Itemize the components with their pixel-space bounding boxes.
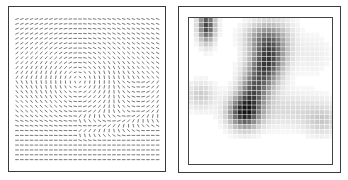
field-segment [123,66,125,69]
field-segment [21,61,23,64]
vector-field-plot [9,7,167,173]
heat-cell [267,105,271,109]
heat-cell [301,125,305,129]
heat-cell [315,42,319,46]
heat-cell [291,18,295,22]
field-segment [132,91,135,92]
field-segment [152,105,155,108]
heat-cell [267,81,271,85]
field-segment [99,75,100,79]
heat-cell [252,33,256,37]
heat-cell [189,96,193,100]
heat-cell [247,52,251,56]
heat-cell [252,18,256,22]
heat-cell [194,110,198,114]
heat-cell [325,47,329,51]
heat-cell [262,105,266,109]
heat-cell [320,115,324,119]
field-segment [59,120,62,121]
heat-cell [315,57,319,61]
field-segment [98,33,101,34]
field-segment [132,52,135,54]
heat-cell [330,96,333,100]
field-segment [99,85,100,88]
field-segment [40,56,42,59]
field-segment [146,101,149,103]
field-segment [41,85,42,88]
field-segment [16,95,18,98]
field-segment [15,18,18,19]
field-segment [20,18,23,19]
field-segment [54,23,58,24]
heat-cell [286,37,290,41]
heat-cell [247,67,251,71]
field-segment [16,66,18,69]
field-segment [54,57,57,59]
heat-cell [325,96,329,100]
heat-cell [286,28,290,32]
field-segment [55,71,56,74]
heat-cell [271,120,275,124]
field-segment [79,86,82,87]
field-segment [40,115,43,117]
heat-cell [238,52,242,56]
field-segment [15,38,18,40]
field-segment [108,47,111,49]
heat-cell [262,86,266,90]
field-segment [40,42,43,44]
field-segment [117,18,120,19]
field-segment [30,125,33,126]
field-segment [16,52,19,54]
field-segment [137,115,140,117]
field-segment [93,43,96,44]
field-segment [69,71,71,73]
field-segment [108,33,111,34]
field-segment [98,105,100,108]
field-segment [93,95,95,98]
field-segment [88,66,91,68]
field-segment [98,95,100,98]
heat-cell [262,110,266,114]
heat-cell [330,130,333,134]
heat-cell [238,96,242,100]
field-segment [122,18,125,19]
heat-cell [320,67,324,71]
field-segment [89,76,90,79]
heat-cell [233,125,237,129]
heat-cell [315,91,319,95]
heat-cell [276,37,280,41]
field-segment [21,100,23,103]
heat-cell [271,67,275,71]
field-segment [127,28,130,29]
field-segment [142,66,144,69]
heat-cell [257,47,261,51]
heat-cell [301,105,305,109]
field-segment [84,86,86,88]
heat-cell [271,23,275,27]
field-segment [118,110,120,113]
field-segment [151,23,154,24]
field-segment [127,129,130,132]
field-segment [88,110,91,112]
heat-cell [291,130,295,134]
field-segment [156,71,159,73]
field-segment [122,110,125,112]
field-segment [69,48,73,49]
field-segment [15,120,18,121]
heat-cell [199,37,203,41]
field-segment [127,100,130,102]
heat-cell [262,33,266,37]
field-segment [103,134,105,137]
field-segment [84,134,85,137]
heat-cell [315,47,319,51]
field-segment [93,105,96,107]
heat-cell [276,120,280,124]
field-segment [54,28,57,29]
field-segment [147,125,150,127]
field-segment [141,28,144,29]
heat-cell [305,47,309,51]
field-segment [20,110,23,112]
field-segment [16,61,18,64]
heat-cell [204,23,208,27]
heat-cell [213,105,217,109]
